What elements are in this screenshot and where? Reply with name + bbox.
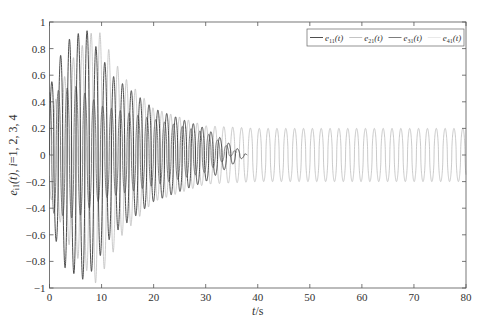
x-tick-label: 40 [252,291,264,303]
x-tick-label: 10 [96,291,108,303]
y-tick-label: 0.4 [32,96,46,108]
x-tick-label: 30 [200,291,212,303]
x-tick-label: 50 [304,291,316,303]
series-layer [50,31,466,283]
x-tick-label: 70 [408,291,420,303]
y-tick-label: −0.6 [26,229,46,241]
legend-entry-label: e41(t) [443,33,462,44]
y-axis-label: ei1(t), i=1, 2, 3, 4 [6,114,21,195]
y-tick-label: −0.8 [26,255,46,267]
y-tick-label: 1 [40,16,46,28]
plot-frame [50,22,467,288]
x-tick-label: 20 [148,291,160,303]
x-axis-label: t/s [252,304,264,318]
legend-entry-label: e11(t) [325,33,343,44]
y-tick-label: 0 [40,149,46,161]
y-tick-label: 0.6 [32,69,46,81]
chart-svg: 01020304050607080−1−0.8−0.6−0.4−0.200.20… [0,0,487,331]
y-tick-label: −1 [34,282,46,294]
chart-container: 01020304050607080−1−0.8−0.6−0.4−0.200.20… [0,0,487,331]
legend-entry-label: e31(t) [404,33,423,44]
legend-entry-label: e21(t) [364,33,383,44]
x-tick-label: 60 [356,291,368,303]
legend: e11(t)e21(t)e31(t)e41(t) [307,29,464,46]
y-tick-label: 0.8 [32,43,46,55]
y-tick-label: −0.4 [26,202,46,214]
y-tick-label: 0.2 [32,122,46,134]
x-tick-label: 0 [47,291,53,303]
y-tick-label: −0.2 [26,176,46,188]
x-tick-label: 80 [461,291,473,303]
